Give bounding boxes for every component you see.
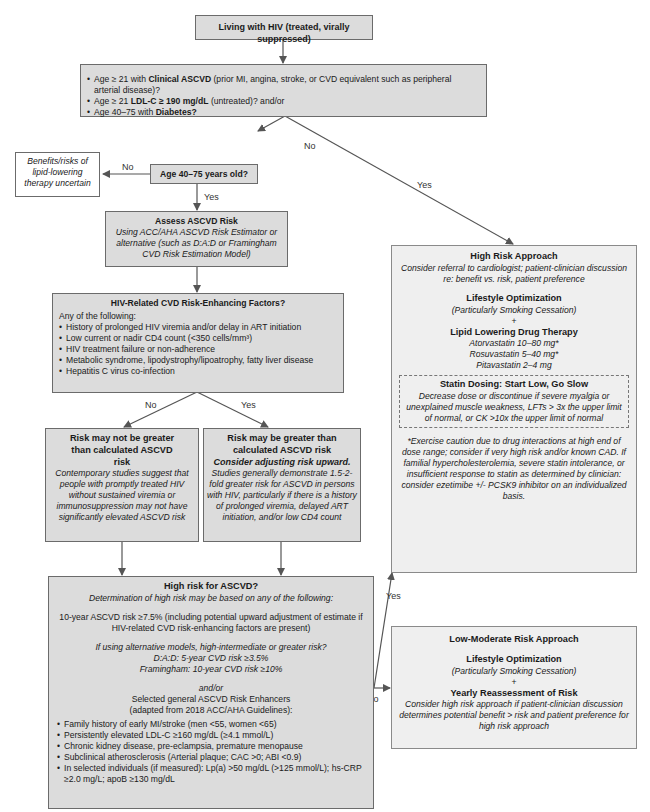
hiv-factor-item: Hepatitis C virus co-infection [59, 366, 337, 377]
edge-label-criteria-yes: Yes [417, 180, 432, 190]
risk-greater-node: Risk may be greater than calculated ASCV… [203, 428, 361, 542]
age-question-node: Age 40–75 years old? [150, 164, 258, 184]
statin-dosing-title: Statin Dosing: Start Low, Go Slow [404, 379, 624, 391]
low-lifestyle-title: Lifestyle Optimization [396, 654, 632, 666]
hiv-factors-list: History of prolonged HIV viremia and/or … [59, 322, 337, 377]
high-risk-q-title: High risk for ASCVD? [57, 581, 365, 593]
statin-dosing-box: Statin Dosing: Start Low, Go Slow Decrea… [399, 375, 629, 428]
edge-label-factors-yes: Yes [241, 400, 256, 410]
high-plus: + [395, 316, 633, 327]
drug-item: Pitavastatin 2–4 mg [395, 360, 633, 371]
uncertain-node: Benefits/risks of lipid-lowering therapy… [15, 152, 100, 197]
assess-title: Assess ASCVD Risk [110, 216, 283, 227]
enhancer-item: Family history of early MI/stroke (men <… [57, 719, 365, 730]
high-risk-q-subtitle: Determination of high risk may be based … [57, 593, 365, 604]
risk-greater-title: Risk may be greater than calculated ASCV… [207, 433, 357, 457]
enhancer-item: In selected individuals (if measured): L… [57, 763, 365, 785]
criteria-item: Age 40–75 with Diabetes? [87, 107, 480, 118]
low-approach-title: Low-Moderate Risk Approach [396, 634, 632, 646]
edge-label-age-yes: Yes [204, 192, 219, 202]
high-approach-desc: Consider referral to cardiologist; patie… [395, 263, 633, 285]
enhancer-item: Chronic kidney disease, pre-eclampsia, p… [57, 741, 365, 752]
high-risk-q-andor: and/or [57, 683, 365, 694]
start-title: Living with HIV (treated, virally suppre… [218, 22, 349, 44]
high-risk-q-alt-models: If using alternative models, high-interm… [57, 642, 365, 653]
high-risk-approach-node: High Risk Approach Consider referral to … [391, 245, 637, 573]
drug-therapy-title: Lipid Lowering Drug Therapy [395, 327, 633, 339]
risk-greater-desc: Studies generally demonstrate 1.5-2-fold… [207, 468, 357, 523]
assess-desc: Using ACC/AHA ASCVD Risk Estimator or al… [110, 227, 283, 260]
risk-not-greater-node: Risk may not be greater than calculated … [45, 428, 199, 542]
high-approach-footnote: *Exercise caution due to drug interactio… [395, 436, 633, 502]
assess-risk-node: Assess ASCVD Risk Using ACC/AHA ASCVD Ri… [105, 211, 288, 267]
high-risk-q-ten-year: 10-year ASCVD risk ≥7.5% (including pote… [57, 612, 365, 634]
risk-not-greater-title: Risk may not be greater than calculated … [50, 433, 194, 468]
edge-label-highrisk-yes: Yes [386, 591, 401, 601]
age-question-title: Age 40–75 years old? [160, 169, 248, 179]
high-risk-q-enhancers-title: Selected general ASCVD Risk Enhancers [57, 694, 365, 705]
high-risk-q-enhancers-source: (adapted from 2018 ACC/AHA Guidelines): [57, 705, 365, 716]
low-moderate-approach-node: Low-Moderate Risk Approach Lifestyle Opt… [391, 626, 637, 749]
high-risk-q-framingham: Framingham: 10-year CVD risk ≥10% [57, 664, 365, 675]
uncertain-text: Benefits/risks of lipid-lowering therapy… [24, 156, 90, 188]
edge-label-factors-no: No [145, 400, 157, 410]
hiv-factors-intro: Any of the following: [59, 311, 337, 322]
hiv-factor-item: HIV treatment failure or non-adherence [59, 344, 337, 355]
reassess-desc: Consider high risk approach if patient-c… [396, 699, 632, 732]
criteria-node: Age ≥ 21 with Clinical ASCVD (prior MI, … [80, 64, 487, 117]
enhancer-item: Persistently elevated LDL-C ≥160 mg/dL (… [57, 730, 365, 741]
high-lifestyle-title: Lifestyle Optimization [395, 293, 633, 305]
statin-dosing-desc: Decrease dose or discontinue if severe m… [404, 391, 624, 424]
enhancer-item: Subclinical atherosclerosis (Arterial pl… [57, 752, 365, 763]
drug-item: Rosuvastatin 5–40 mg* [395, 349, 633, 360]
reassess-title: Yearly Reassessment of Risk [396, 688, 632, 700]
high-risk-question-node: High risk for ASCVD? Determination of hi… [48, 576, 374, 809]
drug-item: Atorvastatin 10–80 mg* [395, 338, 633, 349]
hiv-factors-node: HIV-Related CVD Risk-Enhancing Factors? … [52, 293, 344, 393]
high-approach-title: High Risk Approach [395, 251, 633, 263]
high-risk-q-dad: D:A:D: 5-year CVD risk ≥3.5% [57, 653, 365, 664]
hiv-factor-item: History of prolonged HIV viremia and/or … [59, 322, 337, 333]
start-node: Living with HIV (treated, virally suppre… [195, 15, 373, 40]
low-plus: + [396, 677, 632, 688]
criteria-item: Age ≥ 21 LDL-C ≥ 190 mg/dL (untreated)? … [87, 96, 480, 107]
hiv-factor-item: Metabolic syndrome, lipodystrophy/lipoat… [59, 355, 337, 366]
low-lifestyle-desc: (Particularly Smoking Cessation) [396, 666, 632, 677]
risk-not-greater-desc: Contemporary studies suggest that people… [50, 468, 194, 523]
high-lifestyle-desc: (Particularly Smoking Cessation) [395, 305, 633, 316]
edge-label-criteria-no: No [304, 141, 316, 151]
enhancers-list: Family history of early MI/stroke (men <… [57, 719, 365, 785]
edge-label-age-no: No [122, 162, 134, 172]
criteria-item: Age ≥ 21 with Clinical ASCVD (prior MI, … [87, 74, 480, 96]
risk-greater-subtitle: Consider adjusting risk upward. [207, 457, 357, 469]
criteria-list: Age ≥ 21 with Clinical ASCVD (prior MI, … [87, 74, 480, 118]
hiv-factors-title: HIV-Related CVD Risk-Enhancing Factors? [59, 298, 337, 309]
hiv-factor-item: Low current or nadir CD4 count (<350 cel… [59, 333, 337, 344]
